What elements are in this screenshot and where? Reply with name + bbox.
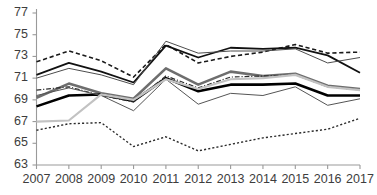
x-tick-label: 2016 [311,172,345,186]
x-tick-label: 2011 [149,172,183,186]
y-tick-label: 63 [2,157,28,171]
x-tick-label: 2012 [181,172,215,186]
x-tick-label: 2014 [246,172,280,186]
x-tick-label: 2008 [52,172,86,186]
series-line-series-dotted-bottom [37,118,361,151]
y-tick-label: 75 [2,27,28,41]
y-tick-label: 69 [2,92,28,106]
x-tick-label: 2007 [20,172,54,186]
x-tick-label: 2013 [214,172,248,186]
y-tick-label: 71 [2,70,28,84]
series-line-series-solid-upper-bold [37,46,361,83]
y-tick-label: 67 [2,114,28,128]
series-line-series-black-mid-bold [37,78,361,106]
y-tick-label: 73 [2,48,28,62]
x-tick-label: 2015 [278,172,312,186]
y-tick-label: 65 [2,135,28,149]
x-tick-label: 2017 [343,172,377,186]
series-line-series-lightgray-partial [37,75,361,122]
series-line-series-dashed-upper [37,44,361,77]
x-tick-label: 2009 [84,172,118,186]
y-tick-label: 77 [2,5,28,19]
x-tick-label: 2010 [117,172,151,186]
